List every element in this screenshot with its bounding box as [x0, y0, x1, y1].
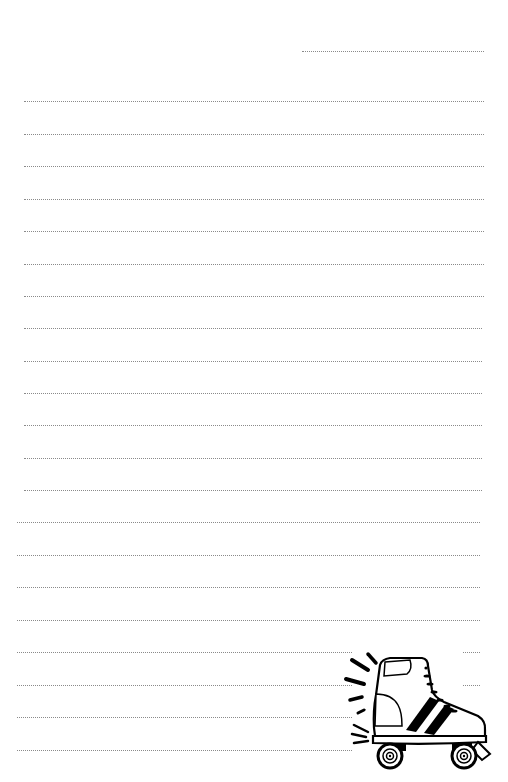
- ruled-line: [17, 555, 480, 556]
- header-rule: [302, 51, 484, 52]
- notepaper-page: [0, 0, 508, 782]
- ruled-line: [24, 166, 484, 167]
- roller-skate-icon: [340, 650, 500, 770]
- ruled-line: [24, 264, 484, 265]
- ruled-line: [24, 458, 482, 459]
- ruled-line: [24, 134, 484, 135]
- ruled-line: [24, 101, 484, 102]
- ruled-line: [24, 328, 482, 329]
- ruled-line: [24, 199, 484, 200]
- ruled-line: [24, 425, 482, 426]
- ruled-line: [17, 587, 480, 588]
- ruled-line: [24, 490, 482, 491]
- ruled-line: [17, 620, 480, 621]
- ruled-line: [24, 361, 482, 362]
- ruled-line: [24, 231, 484, 232]
- ruled-line: [24, 393, 482, 394]
- ruled-line: [17, 522, 480, 523]
- ruled-line: [24, 296, 484, 297]
